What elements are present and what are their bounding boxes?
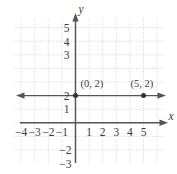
line-right-arrowhead	[158, 92, 167, 98]
point-label-5-2: (5, 2)	[131, 78, 154, 90]
y-tick-label-3: 3	[64, 49, 70, 61]
y-axis-name: y	[78, 3, 85, 16]
y-tick-label-5: 5	[64, 22, 70, 34]
x-tick-label--2: −2	[42, 126, 54, 138]
x-tick-label--1: −1	[56, 126, 68, 138]
x-axis-arrowhead	[160, 120, 169, 127]
plotted-point-0-2	[73, 93, 78, 98]
y-tick-label--2: −2	[59, 144, 71, 156]
line-left-arrowhead	[16, 92, 25, 98]
point-label-0-2: (0, 2)	[81, 78, 104, 90]
x-tick-label-2: 2	[100, 126, 106, 138]
x-tick-label-3: 3	[113, 126, 119, 138]
x-tick-label--3: −3	[29, 126, 41, 138]
x-tick-label-5: 5	[141, 126, 147, 138]
grid-lines	[14, 19, 164, 164]
y-tick-label-4: 4	[64, 36, 70, 48]
axes	[20, 18, 164, 163]
y-tick-label--3: −3	[59, 158, 71, 170]
x-tick-label-1: 1	[86, 126, 92, 138]
x-axis-name: x	[168, 110, 175, 122]
x-tick-label--4: −4	[15, 126, 27, 138]
y-tick-label-2: 2	[64, 90, 70, 102]
coordinate-plane-graph: (0, 2) (5, 2) −4 −3 −2 −1 1 2 3 4 5 5 4 …	[0, 0, 177, 174]
y-tick-label-1: 1	[64, 103, 70, 115]
plotted-point-5-2	[141, 93, 146, 98]
x-tick-label-4: 4	[127, 126, 133, 138]
